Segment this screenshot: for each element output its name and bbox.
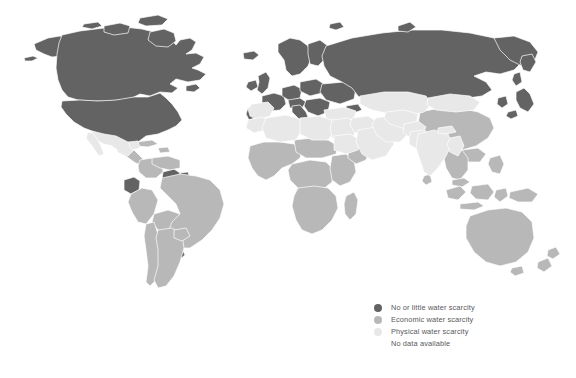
region-madagascar — [344, 192, 358, 220]
region-sumatra — [446, 186, 466, 200]
region-sulawesi — [494, 188, 508, 202]
legend-item-economic-scarcity[interactable]: Economic water scarcity — [374, 314, 564, 326]
region-southern-africa — [292, 186, 338, 234]
region-svalbard — [329, 22, 344, 30]
legend-swatch-no-or-little-scarcity — [374, 304, 382, 312]
region-new-zealand-north — [547, 247, 560, 259]
region-new-zealand-south — [537, 258, 552, 272]
region-united-states — [61, 93, 182, 144]
region-malaysia — [452, 178, 470, 187]
region-poland-baltics — [300, 79, 324, 96]
legend-item-no-data-available[interactable]: No data available — [374, 338, 564, 350]
region-arctic-island-small — [82, 22, 102, 29]
region-java — [460, 202, 484, 210]
region-japan-south — [506, 110, 518, 119]
region-caribbean-hispaniola — [158, 147, 170, 153]
legend-swatch-physical-scarcity — [374, 328, 382, 336]
legend-item-physical-scarcity[interactable]: Physical water scarcity — [374, 326, 564, 338]
region-algeria-tunisia — [262, 115, 302, 142]
legend-label-physical-scarcity: Physical water scarcity — [391, 326, 469, 338]
region-sakhalin — [512, 72, 522, 86]
region-scandinavia — [278, 38, 312, 76]
region-kamchatka — [520, 54, 536, 72]
legend-label-no-data-available: No data available — [391, 338, 450, 350]
region-aleutians — [24, 56, 38, 61]
legend-label-economic-scarcity: Economic water scarcity — [391, 314, 473, 326]
legend-swatch-no-data-available — [374, 340, 382, 348]
region-ellesmere — [138, 15, 168, 26]
region-japan — [516, 88, 534, 112]
region-canada — [56, 27, 206, 101]
region-iceland — [243, 51, 259, 60]
region-papua-new-guinea — [509, 188, 538, 202]
water-scarcity-map-figure: No or little water scarcity Economic wat… — [0, 0, 576, 378]
region-ireland — [246, 80, 258, 91]
region-borneo — [470, 184, 494, 200]
region-newfoundland — [186, 84, 200, 92]
region-sudan — [334, 134, 360, 154]
map-legend: No or little water scarcity Economic wat… — [374, 302, 564, 350]
legend-label-no-or-little-scarcity: No or little water scarcity — [391, 302, 475, 314]
region-philippines — [488, 155, 504, 174]
region-korea — [497, 96, 508, 108]
region-sahel — [294, 138, 338, 158]
legend-swatch-economic-scarcity — [374, 316, 382, 324]
region-victoria-island — [104, 23, 130, 35]
region-libya — [300, 116, 334, 140]
region-australia — [466, 208, 534, 266]
legend-item-no-or-little-scarcity[interactable]: No or little water scarcity — [374, 302, 564, 314]
region-united-kingdom — [257, 72, 270, 94]
region-tasmania — [510, 266, 524, 276]
